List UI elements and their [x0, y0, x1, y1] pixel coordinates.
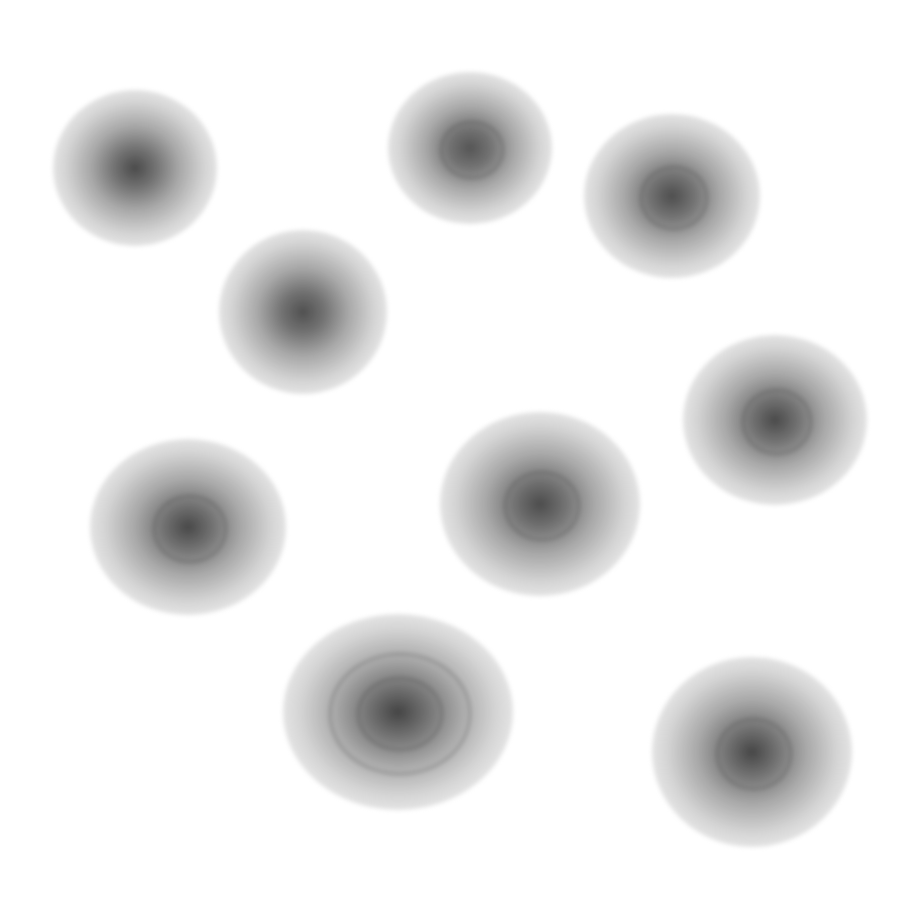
ring-mark [716, 718, 792, 790]
blob-1 [53, 90, 217, 246]
ring-mark [742, 389, 812, 454]
blob-6 [90, 439, 286, 615]
blob-5 [683, 335, 867, 505]
blob-8 [283, 614, 513, 810]
blob-2 [388, 72, 552, 224]
blob-3 [584, 114, 760, 278]
blob-9 [652, 657, 852, 847]
ring-mark [440, 121, 503, 180]
blob-4 [219, 230, 387, 394]
blob-7 [440, 412, 640, 596]
ring-mark [640, 166, 707, 229]
image-canvas [0, 0, 915, 898]
ring-mark [329, 653, 471, 775]
ring-mark [504, 471, 580, 541]
ring-mark [153, 495, 228, 562]
